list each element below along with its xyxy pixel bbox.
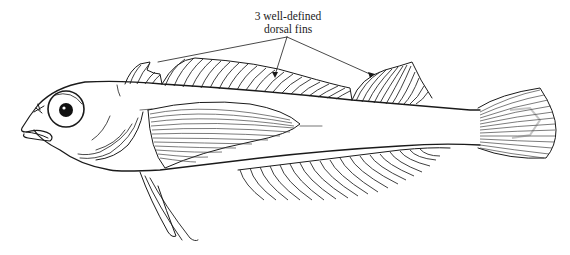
second-dorsal-fin [162,58,352,100]
pelvic-fin [140,172,198,241]
annotation-pointers [158,37,375,78]
first-dorsal-fin [125,62,162,84]
caudal-fin [478,88,556,158]
fish-illustration: 3 well-defined dorsal fins [0,0,570,255]
third-dorsal-fin [352,62,432,104]
fish-drawing [0,0,570,255]
anal-fin [238,148,450,200]
pectoral-fin [148,102,300,168]
